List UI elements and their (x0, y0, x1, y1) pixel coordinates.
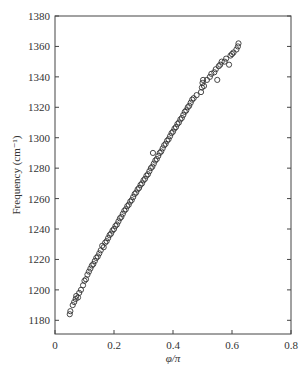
data-point (226, 62, 231, 67)
data-point (145, 172, 150, 177)
data-point (236, 41, 241, 46)
data-point (207, 74, 212, 79)
y-tick-label: 1340 (28, 71, 51, 83)
data-point (95, 254, 100, 259)
x-axis-label: φ/π (166, 352, 181, 364)
data-point (119, 214, 124, 219)
y-tick-label: 1360 (28, 40, 51, 52)
y-axis-label: Frequency (cm⁻¹) (10, 135, 23, 214)
data-point (229, 51, 234, 56)
y-tick-label: 1280 (28, 162, 51, 174)
data-point (97, 251, 102, 256)
y-tick-label: 1200 (28, 284, 51, 296)
data-point (215, 77, 220, 82)
data-point (234, 47, 239, 52)
data-point (166, 137, 171, 142)
data-point (86, 269, 91, 274)
y-tick-label: 1380 (28, 10, 51, 22)
y-tick-label: 1260 (28, 193, 51, 205)
data-point (213, 67, 218, 72)
data-point (228, 53, 233, 58)
data-point (204, 77, 209, 82)
x-tick-label: 0.2 (107, 339, 121, 351)
plot-area (55, 16, 291, 334)
x-tick-label: 0.6 (225, 339, 239, 351)
data-point (70, 302, 75, 307)
data-point (68, 309, 73, 314)
data-point (159, 149, 164, 154)
data-points (67, 41, 241, 317)
x-tick-label: 0 (52, 339, 58, 351)
scatter-chart: 1180120012201240126012801300132013401360… (0, 0, 308, 379)
data-point (187, 103, 192, 108)
x-tick-label: 0.8 (284, 339, 298, 351)
data-point (150, 150, 155, 155)
data-point (100, 243, 105, 248)
plot-frame (55, 16, 291, 334)
y-tick-label: 1320 (28, 101, 51, 113)
data-point (231, 50, 236, 55)
data-point (154, 156, 159, 161)
x-tick-label: 0.4 (166, 339, 180, 351)
x-axis: 00.20.40.60.8 (52, 330, 298, 351)
y-tick-label: 1180 (28, 314, 50, 326)
data-point (190, 97, 195, 102)
data-point (179, 115, 184, 120)
data-point (191, 96, 196, 101)
data-point (114, 222, 119, 227)
y-tick-label: 1240 (28, 223, 51, 235)
data-point (72, 299, 77, 304)
y-tick-label: 1300 (28, 132, 51, 144)
data-point (82, 278, 87, 283)
data-point (104, 239, 109, 244)
data-point (150, 164, 155, 169)
data-point (85, 272, 90, 277)
y-axis: 1180120012201240126012801300132013401360… (28, 10, 291, 326)
data-point (91, 261, 96, 266)
data-point (129, 198, 134, 203)
y-tick-label: 1220 (28, 253, 51, 265)
